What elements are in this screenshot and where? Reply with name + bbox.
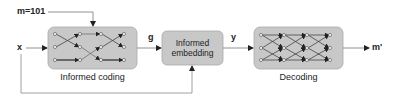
decoding-caption: Decoding [254, 73, 343, 82]
input-label: x [17, 43, 22, 52]
output-label: m' [372, 43, 382, 52]
coded-label: g [148, 33, 154, 42]
informed-coding-caption: Informed coding [48, 73, 137, 82]
message-label: m=101 [17, 7, 45, 16]
informed-embedding-line1: Informed [162, 38, 223, 48]
informed-embedding-label: Informed embedding [162, 38, 223, 58]
embedded-label: y [231, 33, 236, 42]
informed-embedding-line2: embedding [162, 48, 223, 58]
message-arrow [48, 12, 93, 26]
